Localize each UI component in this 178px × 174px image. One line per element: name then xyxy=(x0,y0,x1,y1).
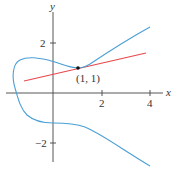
x-axis-label: x xyxy=(165,86,171,98)
x-tick-label-2: 2 xyxy=(99,97,105,109)
point-label: (1, 1) xyxy=(76,72,100,85)
y-tick-label-2: 2 xyxy=(40,37,46,49)
x-tick-label-4: 4 xyxy=(147,97,153,109)
y-axis-label: y xyxy=(49,0,55,12)
point-1-1 xyxy=(76,66,80,70)
chart-canvas: 2 4 2 −2 x y (1, 1) xyxy=(0,0,178,174)
curve xyxy=(13,27,150,166)
y-tick-label-neg2: −2 xyxy=(35,137,47,149)
